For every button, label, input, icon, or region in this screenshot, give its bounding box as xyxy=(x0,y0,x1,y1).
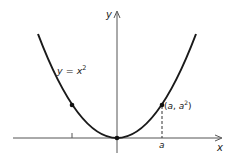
point-label: (a, a2) xyxy=(164,99,192,111)
parabola-diagram: y x y = x2 (a, a2) a xyxy=(0,0,236,161)
function-eq: = xyxy=(63,65,77,76)
function-label: y = x2 xyxy=(56,64,86,76)
function-exponent: 2 xyxy=(82,64,86,72)
y-axis-label: y xyxy=(105,9,113,20)
y-axis xyxy=(114,11,120,153)
point-label-close: ) xyxy=(188,101,192,111)
x-axis-label: x xyxy=(216,142,223,153)
point-negative-a xyxy=(70,103,75,108)
tick-label-a: a xyxy=(159,140,165,150)
vertex-point xyxy=(115,136,120,141)
